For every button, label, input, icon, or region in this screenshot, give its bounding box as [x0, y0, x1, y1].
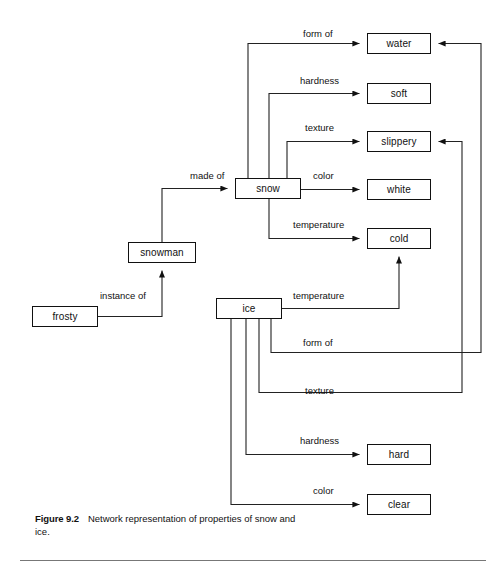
node-clear[interactable]: clear [367, 494, 431, 515]
node-frosty[interactable]: frosty [32, 306, 98, 327]
edge-label-ice-form-of-water: form of [303, 338, 333, 348]
figure-number: Figure 9.2 [35, 513, 79, 524]
node-label: water [387, 39, 412, 49]
node-label: cold [390, 234, 409, 244]
edge-label-snow-color-white: color [313, 171, 334, 181]
edge-line-snowman-made-of-snow [162, 189, 227, 243]
edge-label-snow-form-of-water: form of [303, 29, 333, 39]
node-label: ice [242, 304, 255, 314]
node-hard[interactable]: hard [367, 444, 431, 465]
edge-label-snow-texture-slippery: texture [305, 123, 334, 133]
figure-container: water soft slippery white cold hard clea… [0, 0, 504, 572]
node-label: frosty [52, 312, 77, 322]
figure-caption: Figure 9.2Network representation of prop… [35, 513, 305, 538]
edge-label-ice-hardness-hard: hardness [300, 436, 339, 446]
node-slippery[interactable]: slippery [367, 131, 431, 152]
node-label: slippery [381, 137, 416, 147]
edge-line-ice-color-clear [231, 319, 359, 505]
edge-label-ice-color-clear: color [313, 486, 334, 496]
edge-line-snow-hardness-soft [269, 94, 359, 179]
node-label: white [387, 185, 411, 195]
node-label: clear [388, 500, 410, 510]
node-label: soft [391, 89, 408, 99]
node-label: snow [256, 184, 280, 194]
edge-label-frosty-instance-of-snowman: instance of [100, 291, 146, 301]
node-cold[interactable]: cold [367, 228, 431, 249]
edge-label-ice-temperature-cold: temperature [293, 291, 344, 301]
node-water[interactable]: water [367, 33, 431, 54]
node-soft[interactable]: soft [367, 83, 431, 104]
page-footer-rule [20, 560, 486, 561]
edge-label-snow-temperature-cold: temperature [293, 220, 344, 230]
node-label: hard [389, 450, 409, 460]
edge-label-snow-hardness-soft: hardness [300, 76, 339, 86]
node-ice[interactable]: ice [216, 298, 282, 319]
node-snow[interactable]: snow [235, 178, 301, 199]
node-white[interactable]: white [367, 179, 431, 200]
node-label: snowman [140, 248, 184, 258]
edge-line-snow-form-of-water [248, 44, 359, 179]
edge-label-ice-texture-slippery: texture [305, 386, 334, 396]
edge-label-snowman-made-of-snow: made of [190, 171, 224, 181]
node-snowman[interactable]: snowman [128, 242, 196, 263]
